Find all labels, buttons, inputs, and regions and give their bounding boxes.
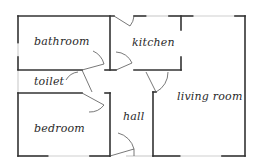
door-kitchen-top	[114, 16, 134, 26]
room-label-hall: hall	[123, 110, 144, 123]
door-kitchen-side	[116, 52, 132, 70]
floor-plan: bathroom kitchen toilet living room bedr…	[0, 0, 257, 166]
room-label-living-room: living room	[177, 90, 243, 103]
room-label-bedroom: bedroom	[34, 122, 85, 135]
room-label-bathroom: bathroom	[34, 35, 90, 48]
room-label-kitchen: kitchen	[132, 36, 175, 49]
door-front	[110, 133, 134, 156]
door-bathroom	[82, 51, 104, 70]
room-label-toilet: toilet	[34, 75, 64, 88]
door-living-room	[146, 72, 168, 92]
door-toilet	[66, 70, 92, 92]
door-bedroom	[82, 93, 104, 112]
